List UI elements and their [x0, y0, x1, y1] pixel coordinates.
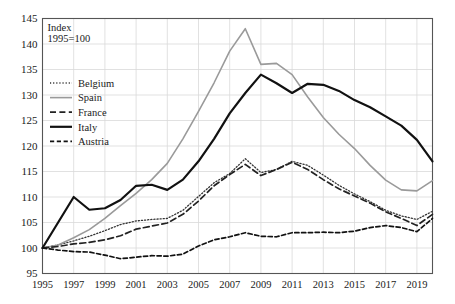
- legend-label-belgium: Belgium: [78, 78, 114, 89]
- x-tick-label: 2009: [250, 279, 271, 290]
- y-tick-label: 105: [21, 216, 38, 228]
- x-tick-label: 2001: [126, 279, 147, 290]
- x-tick-label: 1997: [63, 279, 84, 290]
- y-tick-label: 130: [21, 89, 38, 101]
- x-tick-label: 2003: [157, 279, 178, 290]
- y-tick-label: 100: [21, 242, 38, 254]
- x-tick-label: 2005: [188, 279, 209, 290]
- y-tick-label: 145: [21, 12, 38, 24]
- y-tick-label: 95: [27, 267, 39, 279]
- legend-label-italy: Italy: [78, 122, 98, 133]
- y-tick-label: 135: [21, 63, 38, 75]
- x-tick-label: 2013: [313, 279, 334, 290]
- legend-label-austria: Austria: [78, 136, 109, 147]
- x-tick-label: 2011: [282, 279, 303, 290]
- x-tick-label: 1995: [32, 279, 53, 290]
- y-tick-label: 120: [21, 140, 38, 152]
- index-note-line: Index: [48, 22, 73, 33]
- x-tick-label: 1999: [94, 279, 115, 290]
- line-chart: 95100105110115120125130135140145 1995199…: [0, 0, 455, 304]
- chart-container: 95100105110115120125130135140145 1995199…: [0, 0, 455, 304]
- y-tick-label: 140: [21, 38, 38, 50]
- x-tick-label: 2017: [375, 279, 396, 290]
- y-tick-label: 125: [21, 114, 38, 126]
- x-tick-label: 2007: [219, 279, 240, 290]
- chart-background: [0, 0, 455, 304]
- x-tick-label: 2015: [344, 279, 365, 290]
- index-note-line: 1995=100: [48, 33, 91, 44]
- y-tick-label: 115: [21, 165, 38, 177]
- x-tick-label: 2019: [406, 279, 427, 290]
- y-tick-label: 110: [21, 191, 38, 203]
- legend-label-spain: Spain: [78, 92, 103, 103]
- legend-label-france: France: [78, 107, 107, 118]
